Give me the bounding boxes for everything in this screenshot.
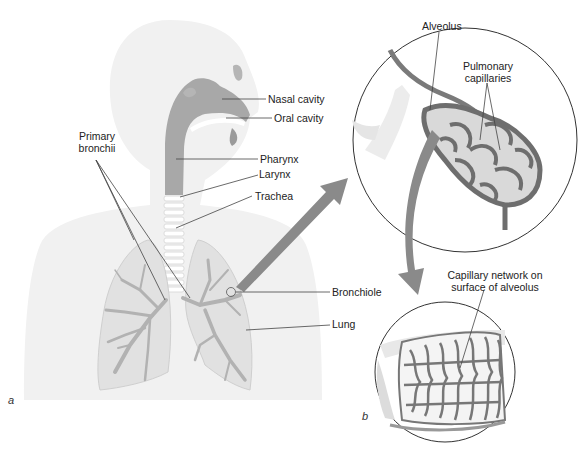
label-primary-bronchii: Primary bronchii bbox=[72, 130, 122, 154]
label-pulmonary-capillaries-line1: Pulmonary bbox=[458, 60, 518, 72]
panel-letter-b: b bbox=[362, 410, 368, 422]
label-pulmonary-capillaries: Pulmonary capillaries bbox=[458, 60, 518, 84]
label-capillary-network-line2: surface of alveolus bbox=[440, 281, 550, 293]
label-pulmonary-capillaries-line2: capillaries bbox=[458, 72, 518, 84]
label-primary-bronchii-line1: Primary bbox=[72, 130, 122, 142]
label-oral-cavity: Oral cavity bbox=[274, 112, 324, 124]
label-capillary-network: Capillary network on surface of alveolus bbox=[440, 269, 550, 293]
label-nasal-cavity: Nasal cavity bbox=[268, 93, 325, 105]
label-pharynx: Pharynx bbox=[260, 153, 299, 165]
panel-letter-a: a bbox=[8, 394, 14, 406]
label-bronchiole: Bronchiole bbox=[332, 286, 382, 298]
label-larynx: Larynx bbox=[259, 168, 291, 180]
label-lung: Lung bbox=[332, 318, 355, 330]
capillary-network-view bbox=[375, 302, 515, 442]
label-alveolus: Alveolus bbox=[422, 20, 462, 32]
label-primary-bronchii-line2: bronchii bbox=[72, 142, 122, 154]
label-trachea: Trachea bbox=[255, 190, 293, 202]
label-capillary-network-line1: Capillary network on bbox=[440, 269, 550, 281]
